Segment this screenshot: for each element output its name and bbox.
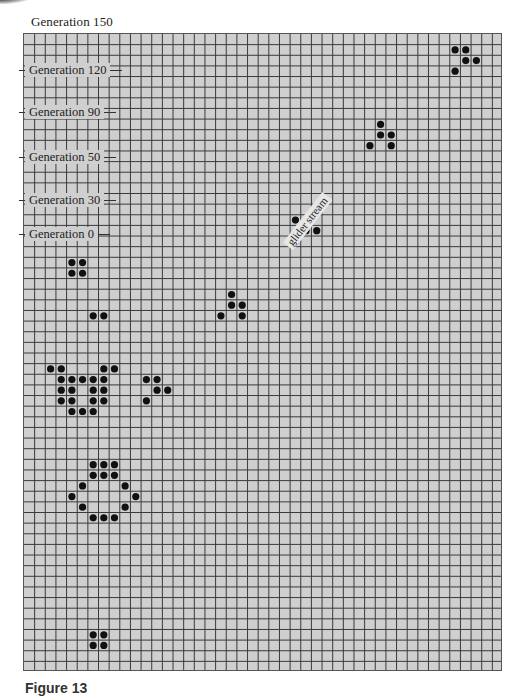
live-cell-dot <box>68 259 75 266</box>
live-cell-dot <box>111 472 118 479</box>
live-cell-dot <box>462 46 469 53</box>
live-cell-dot <box>239 312 246 319</box>
label-guide-line <box>98 234 110 235</box>
live-cell-dot <box>68 493 75 500</box>
live-cell-dot <box>452 46 459 53</box>
generation-label: Generation 120 <box>21 63 122 77</box>
live-cell-dot <box>68 387 75 394</box>
live-cell-dot <box>100 376 107 383</box>
live-cell-dot <box>228 302 235 309</box>
live-cell-dot <box>68 376 75 383</box>
live-cell-dot <box>79 376 86 383</box>
live-cell-dot <box>58 365 65 372</box>
live-cell-dot <box>68 408 75 415</box>
live-cell-dot <box>90 408 97 415</box>
live-cell-dot <box>100 387 107 394</box>
live-cell-dot <box>100 642 107 649</box>
generation-label: Generation 30 <box>21 193 116 207</box>
label-guide-line <box>104 112 116 113</box>
label-guide-line <box>110 70 122 71</box>
live-cell-dot <box>90 312 97 319</box>
live-cell-dot <box>90 514 97 521</box>
live-cell-dot <box>90 387 97 394</box>
live-cell-dot <box>100 461 107 468</box>
live-cell-dot <box>111 461 118 468</box>
live-cell-dot <box>100 472 107 479</box>
live-cell-dot <box>58 397 65 404</box>
live-cell-dot <box>79 408 86 415</box>
pattern-glider-top-right <box>452 46 480 74</box>
pattern-gun-cluster <box>47 365 118 415</box>
live-cell-dot <box>217 312 224 319</box>
live-cell-dot <box>111 365 118 372</box>
live-cell-dot <box>100 365 107 372</box>
live-cell-dot <box>58 376 65 383</box>
live-cell-dot <box>473 57 480 64</box>
live-cell-dot <box>313 227 320 234</box>
live-cell-dot <box>90 642 97 649</box>
life-grid <box>23 33 502 671</box>
live-cell-dot <box>79 504 86 511</box>
live-cell-dot <box>377 121 384 128</box>
live-cell-dot <box>164 387 171 394</box>
live-cell-dot <box>388 142 395 149</box>
generation-label-text: Generation 120 <box>25 63 110 77</box>
live-cell-dot <box>90 376 97 383</box>
pattern-glider-lower <box>217 291 245 319</box>
pattern-glider-upper <box>366 121 394 149</box>
page-corner-shadow <box>0 0 40 4</box>
live-cell-dot <box>462 57 469 64</box>
live-cell-dot <box>90 461 97 468</box>
generation-label-text: Generation 0 <box>25 227 98 241</box>
live-cell-dot <box>143 376 150 383</box>
live-cell-dot <box>366 142 373 149</box>
live-cell-dot <box>153 376 160 383</box>
live-cell-dot <box>100 397 107 404</box>
live-cell-dot <box>100 631 107 638</box>
live-cell-dot <box>79 259 86 266</box>
generation-label-text: Generation 90 <box>25 105 104 119</box>
live-cell-dot <box>100 514 107 521</box>
live-cell-dot <box>377 131 384 138</box>
live-cell-dot <box>79 482 86 489</box>
live-cell-dot <box>47 365 54 372</box>
label-guide-line <box>104 200 116 201</box>
live-cell-dot <box>228 291 235 298</box>
live-cell-dot <box>239 302 246 309</box>
live-cell-dot <box>122 482 129 489</box>
live-cell-dot <box>79 270 86 277</box>
live-cell-dot <box>153 387 160 394</box>
generation-label-text: Generation 50 <box>25 150 104 164</box>
live-cell-dot <box>452 68 459 75</box>
pattern-glider-cluster <box>143 376 171 404</box>
live-cell-dot <box>122 504 129 511</box>
live-cell-dot <box>143 397 150 404</box>
live-cell-dot <box>90 397 97 404</box>
generation-label-text: Generation 30 <box>25 193 104 207</box>
live-cell-dot <box>90 472 97 479</box>
figure-caption: Figure 13 <box>25 680 87 696</box>
label-guide-line <box>104 157 116 158</box>
live-cell-dot <box>388 131 395 138</box>
live-cell-dot <box>132 493 139 500</box>
live-cell-dot <box>111 514 118 521</box>
generation-label: Generation 50 <box>21 150 116 164</box>
live-cell-dot <box>90 631 97 638</box>
live-cell-dot <box>68 397 75 404</box>
live-cell-dot <box>68 270 75 277</box>
live-cell-dot <box>100 312 107 319</box>
generation-label: Generation 90 <box>21 105 116 119</box>
grid-lines-and-cells <box>24 34 502 671</box>
generation-150-label: Generation 150 <box>31 14 113 30</box>
generation-label: Generation 0 <box>21 227 110 241</box>
live-cell-dot <box>58 387 65 394</box>
